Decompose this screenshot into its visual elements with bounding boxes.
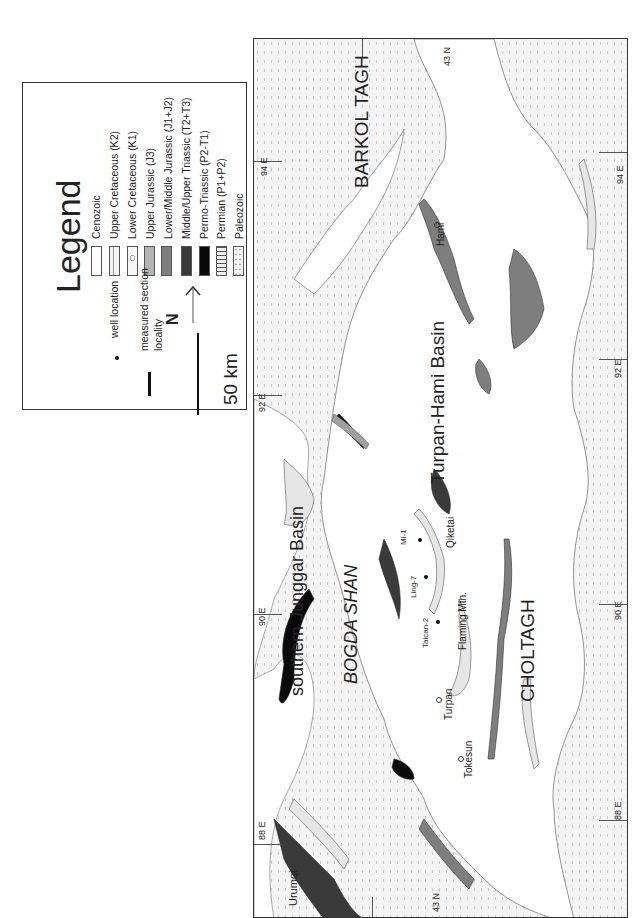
- swatch-cenozoic: [91, 246, 102, 276]
- lon-94e-left-label: 94 E: [260, 157, 269, 176]
- region-label-barkol-tagh: BARKOL TAGH: [352, 55, 371, 188]
- lon-94e-right-tick: [599, 152, 627, 153]
- region-label-turpan-hami: Turpan-Hami Basin: [428, 321, 447, 484]
- swatch-lower-cretaceous: [127, 246, 138, 276]
- locality-label-flaming-mtn: Flaming Mtn.: [458, 592, 468, 650]
- lon-88e-left-tick: [254, 844, 282, 845]
- lat-43n-bottom-label: 43 N: [432, 893, 441, 912]
- locality-label-tokesun: Tokesun: [464, 741, 474, 778]
- lon-88e-left-label: 88 E: [258, 821, 267, 840]
- region-label-bogda-shan: BOGDA SHAN: [342, 565, 360, 684]
- locality-label-urumqi: Urumqi: [288, 871, 299, 906]
- well-label-taican-2: Taican-2: [422, 618, 430, 648]
- legend-label-lower-middle-jurassic: Lower/Middle Jurassic (J1+J2): [163, 97, 174, 239]
- locality-label-qiketai: Qiketai: [446, 517, 456, 548]
- measured-section-line-icon: [148, 372, 151, 396]
- well-taican2-marker-icon: [436, 620, 440, 624]
- region-label-southern-junggar: southern Junggar Basin: [288, 506, 306, 696]
- swatch-lower-middle-jurassic: [161, 246, 172, 276]
- well-location-dot-icon: [115, 356, 119, 360]
- legend-well-location-label: well location: [109, 281, 120, 338]
- legend-label-lower-cretaceous: Lower Cretaceous (K1): [127, 131, 138, 239]
- map-legend: Legend Cenozoic Upper Cretaceous (K2) Lo…: [22, 82, 247, 410]
- turpan-town-marker-icon: [436, 697, 442, 703]
- lon-94e-right-label: 94 E: [616, 165, 625, 184]
- lon-88e-right-tick: [599, 820, 627, 821]
- legend-label-upper-jurassic: Upper Jurassic (J3): [145, 148, 156, 239]
- legend-label-permian: Permian (P1+P2): [216, 158, 227, 239]
- legend-label-upper-cretaceous: Upper Cretaceous (K2): [109, 131, 120, 239]
- lon-90e-left-label: 90 E: [258, 607, 267, 626]
- well-label-mi-1: Mi-1: [400, 529, 408, 545]
- locality-label-turpan: Turpan: [444, 689, 454, 720]
- well-ling7-marker-icon: [424, 575, 428, 579]
- legend-label-paleozoic: Paleozoic: [234, 193, 245, 239]
- lat-43n-top-label: 43 N: [443, 47, 452, 66]
- legend-measured-section-label: measured section: [139, 268, 150, 351]
- legend-locality-label: locality: [153, 319, 164, 351]
- swatch-paleozoic: [233, 246, 244, 276]
- locality-label-hami: Hami: [436, 223, 446, 246]
- legend-label-cenozoic: Cenozoic: [91, 195, 102, 239]
- region-label-choltagh: CHOLTAGH: [518, 599, 537, 702]
- scale-bar-label: 50 km: [221, 353, 240, 405]
- north-label: N: [165, 313, 181, 325]
- lat-43n-bottom-tick: [372, 897, 373, 918]
- legend-label-permo-triassic: Permo-Triassic (P2-T1): [199, 130, 210, 239]
- north-arrow-icon: [183, 283, 203, 323]
- well-label-ling-7: Ling-7: [410, 576, 418, 598]
- lon-88e-right-label: 88 E: [614, 801, 623, 820]
- swatch-middle-upper-triassic: [181, 246, 192, 276]
- swatch-permo-triassic: [199, 246, 210, 276]
- lat-43n-top-tick: [362, 39, 363, 57]
- swatch-permian: [216, 246, 227, 276]
- lon-90e-right-label: 90 E: [614, 601, 623, 620]
- legend-label-middle-upper-triassic: Middle/Upper Triassic (T2+T3): [181, 98, 192, 240]
- scale-bar-icon: [197, 333, 199, 415]
- swatch-upper-cretaceous: [109, 246, 120, 276]
- lon-92e-left-label: 92 E: [258, 393, 267, 412]
- well-mi1-marker-icon: [418, 538, 422, 542]
- lon-92e-right-label: 92 E: [614, 359, 623, 378]
- legend-title: Legend: [51, 180, 85, 293]
